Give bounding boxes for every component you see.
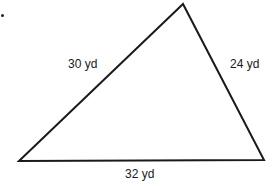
triangle-outline — [19, 4, 264, 161]
right-side-label: 24 yd — [230, 57, 259, 71]
bottom-side-label: 32 yd — [125, 167, 154, 181]
left-side-label: 30 yd — [68, 57, 97, 71]
triangle-shape — [0, 0, 272, 186]
